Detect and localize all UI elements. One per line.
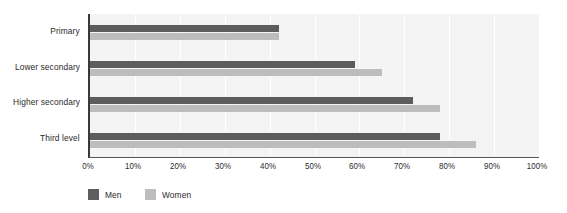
x-axis-tick-50pct: 50% [304, 161, 320, 171]
y-axis-label-lower-secondary: Lower secondary [15, 62, 80, 72]
bar-women-higher-secondary[interactable] [90, 105, 440, 112]
x-axis-tick-labels: 0%10%20%30%40%50%60%70%80%90%100% [88, 161, 537, 175]
bar-women-primary[interactable] [90, 33, 279, 40]
bar-men-primary[interactable] [90, 25, 279, 32]
bar-group-primary [90, 25, 539, 40]
x-axis-tick-80pct: 80% [439, 161, 455, 171]
x-axis-tick-10pct: 10% [125, 161, 141, 171]
gridline [539, 14, 540, 157]
bar-men-third-level[interactable] [90, 133, 440, 140]
legend-swatch-women-icon [145, 189, 156, 200]
x-axis-tick-70pct: 70% [394, 161, 410, 171]
legend-swatch-men-icon [88, 189, 99, 200]
bar-women-third-level[interactable] [90, 141, 476, 148]
legend-item-men[interactable]: Men [88, 189, 123, 200]
bar-group-third-level [90, 133, 539, 148]
bar-group-higher-secondary [90, 97, 539, 112]
bar-group-lower-secondary [90, 61, 539, 76]
y-axis-label-higher-secondary: Higher secondary [13, 97, 80, 107]
x-axis-tick-100pct: 100% [527, 161, 548, 171]
y-axis-label-third-level: Third level [40, 133, 80, 143]
legend: Men Women [88, 189, 193, 200]
legend-item-women[interactable]: Women [145, 189, 193, 200]
bar-chart: Primary Lower secondary Higher secondary… [0, 0, 567, 213]
x-axis-tick-90pct: 90% [484, 161, 500, 171]
bar-men-higher-secondary[interactable] [90, 97, 413, 104]
x-axis-tick-20pct: 20% [170, 161, 186, 171]
legend-label-women: Women [162, 190, 191, 200]
x-axis-tick-60pct: 60% [349, 161, 365, 171]
y-axis-label-primary: Primary [51, 26, 80, 36]
bars-layer [90, 14, 539, 157]
y-axis-category-labels: Primary Lower secondary Higher secondary… [0, 14, 84, 157]
bar-women-lower-secondary[interactable] [90, 69, 382, 76]
bar-men-lower-secondary[interactable] [90, 61, 355, 68]
legend-label-men: Men [105, 190, 122, 200]
plot-area [88, 14, 539, 158]
x-axis-tick-30pct: 30% [215, 161, 231, 171]
x-axis-tick-0pct: 0% [82, 161, 94, 171]
x-axis-tick-40pct: 40% [260, 161, 276, 171]
